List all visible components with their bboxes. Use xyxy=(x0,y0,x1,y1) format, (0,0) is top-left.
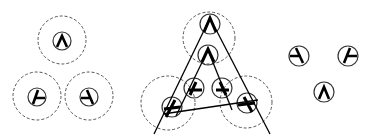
detector-left-icon xyxy=(28,88,46,106)
dashed-region-left xyxy=(141,76,195,130)
panel-right xyxy=(289,46,358,102)
left-glyph xyxy=(164,100,180,117)
detector-bottom-icon xyxy=(314,82,334,102)
panel-middle xyxy=(141,12,272,134)
detector-right-icon xyxy=(338,46,358,66)
inner-left-glyph xyxy=(188,82,202,95)
apex-glyph xyxy=(204,18,216,32)
detector-right-icon xyxy=(80,88,98,106)
inner-apex-glyph xyxy=(202,49,214,62)
figure xyxy=(0,0,379,140)
triangle-left-edge xyxy=(154,18,210,134)
detector-left-icon xyxy=(289,46,309,66)
panel-left xyxy=(13,16,113,120)
detector-top-icon xyxy=(53,32,71,50)
